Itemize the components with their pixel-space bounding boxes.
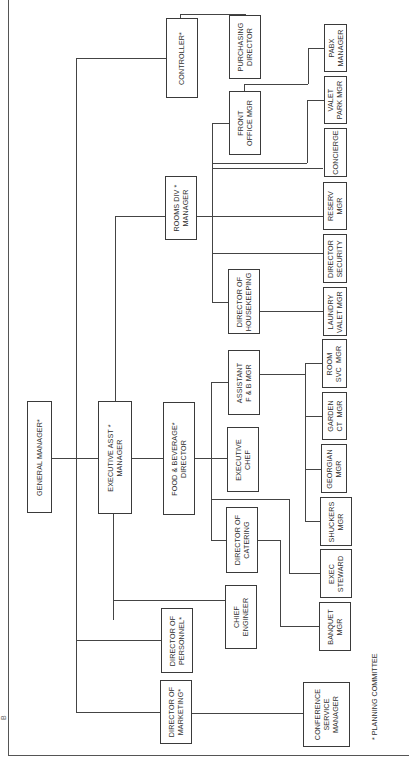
- connector: [307, 100, 308, 163]
- connector: [307, 100, 324, 101]
- connector: [212, 253, 323, 254]
- connector: [212, 123, 229, 124]
- node-concierge: CONCIERGE: [324, 128, 347, 177]
- connector: [280, 540, 281, 626]
- planning-committee-footnote: * PLANNING COMMITTEE: [370, 653, 379, 740]
- connector: [195, 458, 211, 459]
- node-executive-chef: EXECUTIVE CHEF: [227, 427, 259, 492]
- node-rooms-div-manager: ROOMS DIV * MANAGER: [165, 176, 197, 240]
- connector: [211, 382, 228, 383]
- node-garden-ct-mgr: GARDEN CT MGR: [322, 392, 347, 440]
- node-reserv-mgr: RESERV MGR: [323, 182, 347, 230]
- node-pabx-manager: PABX MANAGER: [324, 24, 347, 72]
- node-general-manager: GENERAL MANAGER*: [27, 401, 52, 513]
- node-assistant-fb-mgr: ASSISTANT F & B MGR: [228, 350, 260, 415]
- node-conference-service-manager: CONFERENCE SERVICE MANAGER: [303, 682, 350, 747]
- connector: [244, 84, 245, 91]
- connector: [258, 540, 280, 541]
- node-valet-park-mgr: VALET PARK MGR: [324, 76, 347, 124]
- node-director-of-marketing: DIRECTOR OF MARKETING*: [160, 680, 192, 744]
- connector: [260, 374, 305, 375]
- connector: [212, 123, 213, 302]
- connector: [305, 469, 321, 470]
- page-title-fragment: B: [0, 520, 3, 720]
- node-front-office-mgr: FRONT OFFICE MGR: [229, 91, 261, 155]
- node-exec-steward: EXEC STEWARD: [320, 549, 352, 598]
- connector: [211, 540, 226, 541]
- connector: [280, 626, 319, 627]
- connector: [211, 458, 227, 459]
- connector: [113, 514, 114, 620]
- connector: [212, 302, 228, 303]
- connector: [115, 216, 116, 401]
- node-georgian-mgr: GEORGIAN MGR: [321, 444, 347, 493]
- node-director-of-personnel: DIRECTOR OF PERSONNEL*: [161, 608, 193, 673]
- node-room-svc-mgr: ROOM SVC MGR: [322, 339, 347, 388]
- connector: [212, 163, 307, 164]
- node-shuckers-mgr: SHUCKERS MGR: [320, 497, 352, 546]
- connector: [244, 84, 308, 85]
- connector: [308, 48, 324, 49]
- connector: [211, 382, 212, 540]
- connector: [132, 458, 163, 459]
- node-chief-engineer: CHIEF ENGINEER: [225, 585, 257, 649]
- connector: [212, 216, 323, 217]
- node-banquet-mgr: BANQUET MGR: [319, 602, 351, 651]
- connector: [76, 712, 160, 713]
- node-executive-asst-manager: EXECUTIVE ASST * MANAGER: [98, 401, 132, 514]
- connector: [212, 168, 323, 169]
- connector: [211, 499, 289, 500]
- node-director-of-catering: DIRECTOR OF CATERING: [226, 507, 258, 573]
- node-director-of-housekeeping: DIRECTOR OF HOUSEKEEPING: [228, 269, 260, 334]
- node-food-beverage-director: FOOD & BEVERAGE* DIRECTOR: [163, 402, 195, 515]
- connector: [52, 458, 98, 459]
- connector: [289, 499, 290, 573]
- connector: [305, 363, 322, 364]
- connector: [76, 58, 166, 59]
- connector: [115, 216, 165, 217]
- node-purchasing-director: PURCHASING DIRECTOR: [229, 15, 261, 79]
- connector: [197, 216, 212, 217]
- node-controller: CONTROLLER*: [166, 18, 198, 98]
- node-director-security: DIRECTOR SECURITY: [323, 234, 347, 283]
- connector: [113, 600, 225, 601]
- connector: [305, 416, 322, 417]
- connector: [308, 48, 309, 84]
- node-laundry-valet-mgr: LAUNDRY VALET MGR: [323, 287, 347, 336]
- connector: [76, 640, 161, 641]
- connector: [305, 521, 320, 522]
- connector: [76, 58, 77, 713]
- connector: [289, 573, 320, 574]
- connector: [192, 713, 303, 714]
- connector: [260, 311, 323, 312]
- connector: [305, 363, 306, 521]
